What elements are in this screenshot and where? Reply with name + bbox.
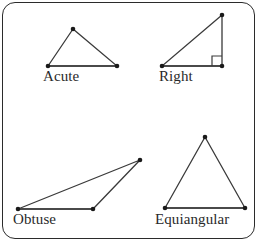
label-right: Right: [159, 69, 193, 84]
vertex-dot: [163, 206, 168, 211]
triangle-types-figure: Acute Right Obtuse Equiangular: [0, 0, 260, 245]
vertex-dot: [91, 207, 96, 212]
acute-triangle: [46, 27, 120, 69]
label-obtuse: Obtuse: [13, 212, 56, 227]
obtuse-triangle: [16, 158, 143, 212]
vertex-dot: [115, 64, 120, 69]
vertex-dot: [220, 64, 225, 69]
vertex-dot: [203, 135, 208, 140]
right-triangle: [160, 13, 225, 69]
triangle-diagrams: [0, 0, 260, 245]
vertex-dot: [220, 13, 225, 18]
vertex-dot: [138, 158, 143, 163]
vertex-dot: [243, 206, 248, 211]
vertex-dot: [71, 27, 76, 32]
label-acute: Acute: [43, 69, 79, 84]
equiangular-triangle: [163, 135, 248, 211]
label-equiangular: Equiangular: [155, 212, 229, 227]
